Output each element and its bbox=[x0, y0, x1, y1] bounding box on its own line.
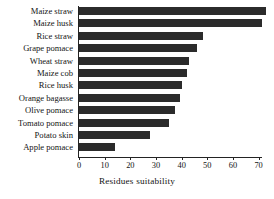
bar bbox=[79, 69, 187, 77]
x-tick-mark bbox=[182, 157, 183, 160]
category-label: Maize straw bbox=[0, 7, 73, 16]
bar bbox=[79, 94, 180, 102]
bar bbox=[79, 57, 189, 65]
bar-chart-figure: Maize straw Maize husk Rice straw Grape … bbox=[0, 0, 274, 199]
category-label: Grape pomace bbox=[0, 44, 73, 53]
category-label: Tomato pomace bbox=[0, 119, 73, 128]
bar bbox=[79, 143, 115, 151]
x-tick-mark bbox=[130, 157, 131, 160]
bar bbox=[79, 119, 169, 127]
x-tick-mark bbox=[233, 157, 234, 160]
category-label: Wheat straw bbox=[0, 57, 73, 66]
bar bbox=[79, 44, 197, 52]
category-label: Potato skin bbox=[0, 131, 73, 140]
bar bbox=[79, 106, 175, 114]
bar bbox=[79, 81, 182, 89]
x-tick-label: 40 bbox=[170, 161, 194, 171]
category-axis: Maize straw Maize husk Rice straw Grape … bbox=[0, 7, 75, 157]
x-tick-label: 60 bbox=[221, 161, 245, 171]
x-tick-label: 10 bbox=[93, 161, 117, 171]
bar bbox=[79, 131, 150, 139]
x-tick-label: 0 bbox=[67, 161, 91, 171]
x-tick-mark bbox=[105, 157, 106, 160]
x-tick-label: 20 bbox=[118, 161, 142, 171]
bar bbox=[79, 19, 262, 27]
x-tick-label: 30 bbox=[144, 161, 168, 171]
category-label: Rice straw bbox=[0, 32, 73, 41]
x-tick-label: 50 bbox=[195, 161, 219, 171]
category-label: Rice husk bbox=[0, 81, 73, 90]
category-label: Orange bagasse bbox=[0, 94, 73, 103]
bar bbox=[79, 7, 266, 15]
category-label: Apple pomace bbox=[0, 143, 73, 152]
x-tick-mark bbox=[207, 157, 208, 160]
category-label: Olive pomace bbox=[0, 106, 73, 115]
category-label: Maize cob bbox=[0, 69, 73, 78]
plot-area bbox=[79, 7, 274, 157]
bar bbox=[79, 32, 203, 40]
x-axis-title: Residues suitability bbox=[0, 176, 274, 186]
x-tick-mark bbox=[259, 157, 260, 160]
category-label: Maize husk bbox=[0, 19, 73, 28]
x-axis: 0 10 20 30 40 50 60 70 bbox=[0, 157, 274, 177]
x-tick-mark bbox=[156, 157, 157, 160]
x-tick-label: 70 bbox=[247, 161, 271, 171]
x-tick-mark bbox=[79, 157, 80, 160]
